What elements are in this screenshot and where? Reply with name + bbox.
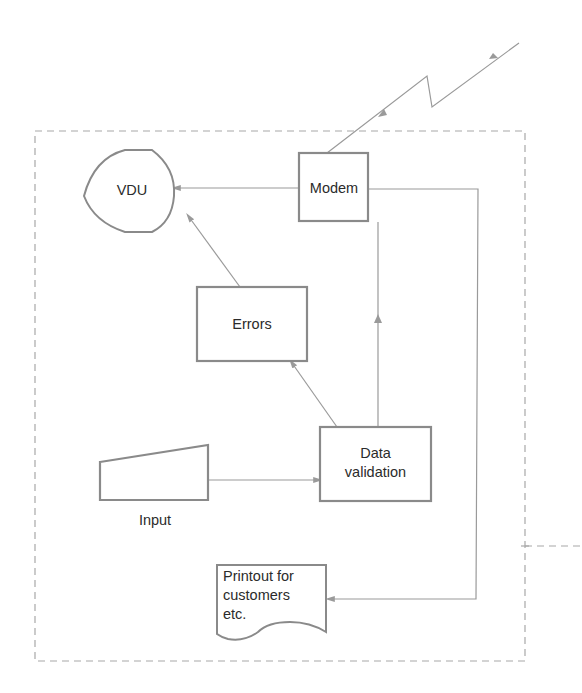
connector-errors-to-vdu bbox=[189, 217, 240, 287]
input-label: Input bbox=[110, 511, 200, 530]
data-validation-label: Data validation bbox=[320, 444, 431, 482]
vdu-label: VDU bbox=[100, 181, 164, 200]
modem-label: Modem bbox=[299, 179, 369, 198]
arrowhead-icon bbox=[374, 314, 382, 323]
connector-validation-to-errors bbox=[292, 363, 337, 427]
printout-label: Printout for customers etc. bbox=[223, 567, 327, 624]
node-input bbox=[100, 445, 208, 500]
errors-label: Errors bbox=[197, 315, 307, 334]
telecom-link-connector bbox=[327, 43, 519, 153]
arrowhead-icon bbox=[489, 53, 498, 59]
connectors bbox=[176, 188, 478, 599]
connector-modem-to-printout bbox=[330, 189, 478, 599]
